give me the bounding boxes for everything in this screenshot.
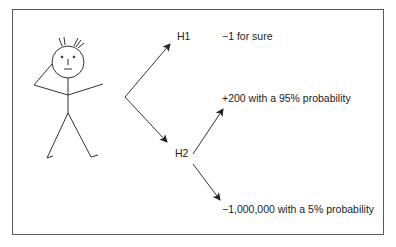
- arrow-to-h1-icon: [125, 44, 170, 97]
- node-h2-label: H2: [175, 147, 188, 159]
- arrow-to-h2-icon: [125, 97, 167, 142]
- stick-figure-icon: [34, 37, 103, 158]
- h2-loss-outcome-label: −1,000,000 with a 5% probability: [222, 203, 374, 215]
- node-h1-label: H1: [177, 30, 190, 42]
- arrow-to-loss-icon: [193, 164, 220, 200]
- decision-branches: [125, 44, 223, 200]
- h2-gain-outcome-label: +200 with a 95% probability: [222, 92, 351, 104]
- h1-outcome-label: −1 for sure: [222, 30, 273, 42]
- arrow-to-gain-icon: [193, 109, 223, 154]
